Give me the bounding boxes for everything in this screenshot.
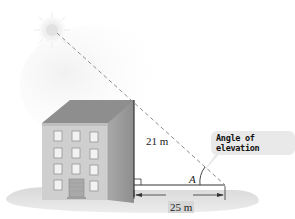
base-label: 25 m	[168, 201, 194, 213]
building	[42, 100, 134, 203]
angle-arc	[200, 167, 205, 185]
diagram-canvas	[0, 0, 295, 219]
height-label: 21 m	[146, 135, 168, 147]
angle-of-elevation-callout: Angle of elevation	[211, 131, 295, 155]
building-door	[69, 179, 84, 197]
angle-label: A	[189, 173, 196, 185]
right-angle-marker	[134, 179, 141, 185]
sun-icon	[34, 12, 70, 48]
